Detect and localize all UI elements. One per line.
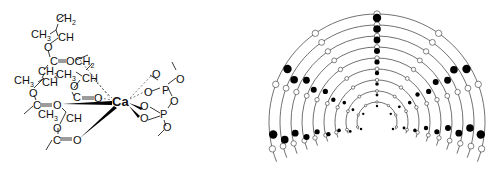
open-circle — [312, 30, 318, 36]
label-o-eq-low: O — [73, 134, 82, 146]
open-circle — [429, 39, 435, 45]
concentric-arc-schematic — [260, 0, 503, 170]
open-circle — [325, 49, 330, 54]
open-circle — [376, 101, 378, 103]
open-circle — [395, 126, 397, 128]
filled-circle — [337, 129, 341, 133]
label-o-p1: O — [152, 68, 161, 80]
label-ch-low: CH — [66, 112, 82, 124]
filled-circle — [374, 48, 380, 54]
open-circle — [357, 114, 359, 116]
label-o-ca2: O — [140, 112, 149, 124]
filled-circle — [331, 98, 335, 102]
open-circle — [387, 104, 389, 106]
open-circle — [304, 93, 309, 98]
label-p1: P — [162, 84, 169, 96]
open-circle — [478, 146, 484, 152]
open-circle — [399, 86, 402, 89]
label-c-mid: C — [73, 91, 81, 103]
open-circle — [356, 126, 358, 128]
open-circle — [425, 102, 429, 106]
filled-circle — [376, 94, 379, 97]
open-circle — [465, 85, 471, 91]
open-circle — [406, 128, 409, 131]
open-circle — [346, 128, 349, 131]
label-ch3-top: CH3 — [31, 28, 51, 42]
filled-circle — [398, 105, 401, 108]
filled-circle — [455, 130, 462, 137]
open-circle — [445, 93, 450, 98]
filled-circle — [281, 136, 289, 144]
label-o-bridge: O — [170, 95, 179, 107]
open-circle — [336, 106, 339, 109]
open-circle — [364, 104, 366, 106]
open-circle — [458, 141, 463, 146]
open-circle — [415, 106, 418, 109]
open-circle — [269, 146, 275, 152]
filled-circle — [326, 132, 330, 136]
open-circle — [291, 141, 296, 146]
filled-circle — [290, 76, 298, 84]
filled-circle — [392, 128, 394, 130]
filled-circle — [374, 59, 379, 64]
filled-circle — [477, 130, 485, 138]
open-circle — [475, 81, 481, 87]
label-o-p2: O — [163, 121, 172, 133]
filled-circle — [375, 82, 379, 86]
open-circle — [376, 90, 379, 93]
label-o-eq-mid: O — [94, 92, 103, 104]
filled-circle — [433, 79, 439, 85]
open-circle — [315, 97, 319, 101]
filled-circle — [403, 127, 406, 130]
open-circle — [325, 102, 329, 106]
filled-circle — [315, 129, 320, 134]
open-circle — [319, 39, 325, 45]
filled-circle — [311, 87, 317, 93]
open-circle — [435, 97, 439, 101]
open-circle — [435, 30, 441, 36]
filled-circle — [445, 125, 451, 131]
filled-circle — [434, 129, 439, 134]
open-circle — [423, 49, 428, 54]
filled-circle — [352, 108, 355, 111]
open-circle — [437, 136, 441, 140]
open-circle — [280, 143, 286, 149]
filled-circle — [375, 71, 379, 75]
label-ch3-left: CH3 — [14, 74, 34, 88]
label-calcium: Ca — [112, 94, 129, 109]
open-circle — [395, 114, 397, 116]
filled-circle — [349, 130, 352, 133]
label-och2: OCH2 — [66, 55, 94, 69]
label-ch-left: CH — [42, 76, 58, 88]
filled-circle — [342, 101, 346, 105]
open-circle — [332, 58, 337, 63]
open-circle — [417, 58, 422, 63]
label-o-p1c: O — [144, 86, 153, 98]
open-circle — [294, 89, 299, 94]
filled-circle — [373, 25, 381, 33]
filled-circle — [466, 124, 474, 132]
label-ch-top: CH — [58, 31, 74, 43]
calcium-coordination-structure: CH2 CH3 CH O C OCH2 CH2 CH3 CH CH3 CH O … — [0, 0, 200, 170]
label-p2: P — [160, 108, 167, 120]
label-o-ca1: O — [140, 100, 149, 112]
open-circle — [393, 95, 396, 98]
open-circle — [426, 133, 430, 137]
filled-circle — [444, 77, 451, 84]
open-circle — [283, 85, 289, 91]
arc — [346, 91, 408, 133]
filled-circle — [269, 130, 277, 138]
open-circle — [405, 77, 409, 81]
label-ch-mid: CH — [82, 72, 98, 84]
filled-circle — [360, 128, 362, 130]
filled-circle — [373, 14, 381, 22]
open-circle — [405, 110, 408, 113]
open-circle — [447, 138, 452, 143]
label-o-eq-left: O — [53, 99, 62, 111]
open-circle — [338, 67, 342, 71]
label-o-p1b: O — [176, 73, 185, 85]
open-circle — [313, 136, 317, 140]
label-o-left: O — [29, 87, 38, 99]
open-circle — [273, 81, 279, 87]
filled-circle — [415, 92, 419, 96]
